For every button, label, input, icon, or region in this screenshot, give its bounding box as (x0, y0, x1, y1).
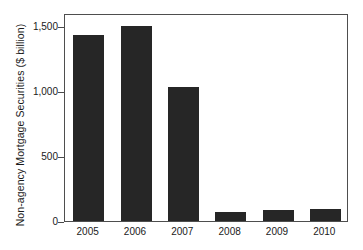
x-tick-label-2010: 2010 (301, 226, 348, 238)
bar-2006 (121, 26, 152, 221)
bar-2005 (73, 35, 104, 221)
y-axis-tick-labels: 1,500 1,000 500 0 (10, 0, 58, 250)
bar-2009 (263, 210, 294, 221)
y-tick-mark-0 (58, 222, 64, 223)
x-tick-label-2005: 2005 (64, 226, 111, 238)
bars-layer (65, 15, 347, 221)
x-tick-label-2009: 2009 (253, 226, 300, 238)
y-tick-label-1500: 1,500 (14, 22, 58, 32)
y-tick-label-1000: 1,000 (14, 87, 58, 97)
bar-2008 (215, 212, 246, 221)
bar-chart-figure: Non-agency Mortgage Securities ($ billio… (0, 0, 363, 250)
y-tick-label-500: 500 (14, 152, 58, 162)
x-axis-tick-labels: 200520062007200820092010 (64, 226, 348, 242)
x-tick-label-2008: 2008 (206, 226, 253, 238)
plot-area (64, 14, 348, 222)
bar-2007 (168, 87, 199, 221)
bar-2010 (310, 209, 341, 221)
x-tick-label-2007: 2007 (159, 226, 206, 238)
y-tick-label-0: 0 (14, 217, 58, 227)
x-tick-label-2006: 2006 (111, 226, 158, 238)
